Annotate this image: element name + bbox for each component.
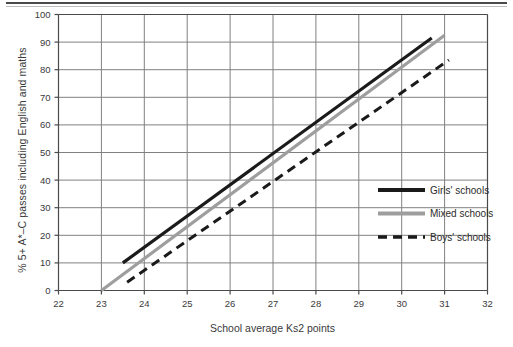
- y-axis-label: % 5+ A*–C passes including English and m…: [16, 30, 28, 290]
- y-tick-label-100: 100: [35, 9, 51, 20]
- x-tick-label-23: 23: [96, 298, 107, 309]
- y-tick-label-40: 40: [40, 175, 51, 186]
- x-tick-label-27: 27: [268, 298, 279, 309]
- x-tick-label-22: 22: [53, 298, 64, 309]
- y-tick-label-10: 10: [40, 257, 51, 268]
- x-tick-label-32: 32: [482, 298, 493, 309]
- y-axis-ticks: 0102030405060708090100: [35, 9, 59, 296]
- y-tick-label-80: 80: [40, 64, 51, 75]
- x-tick-label-24: 24: [139, 298, 150, 309]
- x-tick-label-28: 28: [311, 298, 322, 309]
- legend-label-1: Mixed schools: [430, 208, 493, 219]
- chart-figure: 0102030405060708090100 22232425262728293…: [0, 0, 513, 347]
- x-tick-label-25: 25: [182, 298, 193, 309]
- series-line-boys-schools: [127, 60, 449, 282]
- line-chart-plot: 0102030405060708090100 22232425262728293…: [0, 0, 513, 347]
- y-tick-label-20: 20: [40, 230, 51, 241]
- chart-legend: Girls' schoolsMixed schoolsBoys' schools: [378, 185, 493, 243]
- y-tick-label-0: 0: [45, 285, 50, 296]
- data-series-layer: [101, 35, 448, 290]
- y-tick-label-60: 60: [40, 119, 51, 130]
- y-tick-label-30: 30: [40, 202, 51, 213]
- x-tick-label-31: 31: [439, 298, 450, 309]
- x-axis-ticks: 2223242526272829303132: [53, 291, 493, 309]
- x-axis-label: School average Ks2 points: [58, 322, 487, 334]
- x-tick-label-30: 30: [396, 298, 407, 309]
- y-tick-label-70: 70: [40, 92, 51, 103]
- x-tick-label-29: 29: [354, 298, 365, 309]
- legend-label-2: Boys' schools: [430, 232, 491, 243]
- x-tick-label-26: 26: [225, 298, 236, 309]
- y-tick-label-50: 50: [40, 147, 51, 158]
- y-tick-label-90: 90: [40, 37, 51, 48]
- series-line-girls-schools: [123, 38, 432, 263]
- legend-label-0: Girls' schools: [430, 185, 489, 196]
